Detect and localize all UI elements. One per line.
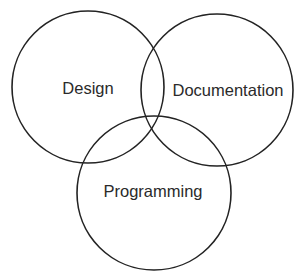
programming-label: Programming xyxy=(103,182,202,200)
set-programming: Programming xyxy=(77,116,231,270)
documentation-label: Documentation xyxy=(173,81,284,99)
venn-diagram: Design Documentation Programming xyxy=(0,0,301,275)
design-label: Design xyxy=(62,79,113,97)
